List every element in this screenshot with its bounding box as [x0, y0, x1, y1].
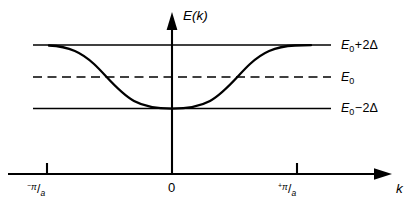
axis-origin-label: 0 — [168, 181, 175, 194]
level-label-e0: E0 — [341, 71, 354, 86]
fraction-numerator: +π — [278, 182, 288, 192]
energy-axis-label: E(k) — [183, 9, 208, 23]
level-subscript: 0 — [349, 76, 354, 86]
tick-label-minus-pi-over-a: −π/a — [27, 182, 45, 198]
level-label-e0-plus-2delta: E0+2Δ — [341, 39, 378, 54]
wavevector-axis-label: k — [396, 182, 403, 196]
level-term: 2Δ — [362, 101, 377, 115]
wavevector-axis-arrowhead — [374, 168, 392, 179]
level-label-e0-minus-2delta: E0−2Δ — [341, 102, 378, 117]
fraction-denominator: a — [41, 188, 46, 198]
fraction: −π/a — [27, 182, 45, 198]
band-structure-figure: E(k) k E0+2Δ E0 E0−2Δ 0 −π/a +π/a — [0, 0, 413, 208]
fraction: +π/a — [278, 182, 296, 198]
fraction-numerator-value: π — [282, 182, 288, 192]
fraction-numerator-value: π — [31, 182, 37, 192]
energy-axis-arrowhead — [167, 12, 178, 30]
fraction-numerator: −π — [27, 182, 37, 192]
level-term: 2Δ — [362, 38, 377, 52]
fraction-denominator: a — [292, 188, 297, 198]
tick-label-plus-pi-over-a: +π/a — [278, 182, 296, 198]
